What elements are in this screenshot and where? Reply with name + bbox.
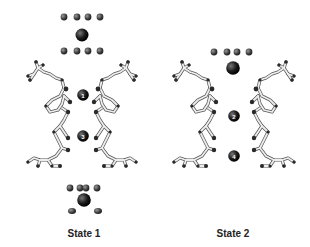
- state-2-label: State 2: [217, 228, 250, 239]
- selectivity-filter-right: [92, 60, 138, 168]
- ion-site-4: 4: [228, 150, 240, 162]
- upper-ion-cluster: [211, 49, 253, 75]
- panel-state-1: 1 3: [26, 14, 137, 214]
- ion-site-3: 3: [77, 130, 89, 142]
- ion-site-2: 2: [228, 110, 240, 122]
- upper-ion-cluster: [61, 14, 104, 55]
- lower-ion-cluster: [67, 185, 102, 214]
- ion-channel-diagram: 1 3: [0, 0, 310, 247]
- selectivity-filter-left: [172, 60, 218, 168]
- ion-site-1: 1: [77, 89, 89, 101]
- selectivity-filter-left: [26, 60, 72, 168]
- selectivity-filter-right: [250, 60, 296, 168]
- panel-state-2: 2 4: [172, 49, 295, 168]
- state-1-label: State 1: [68, 228, 101, 239]
